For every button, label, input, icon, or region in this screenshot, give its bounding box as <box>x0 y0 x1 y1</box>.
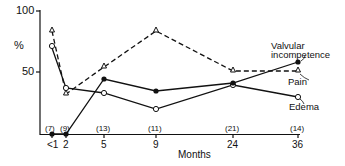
x-tick: 5 <box>101 140 107 150</box>
n-label: (11) <box>148 124 162 134</box>
x-tick: 2 <box>63 140 69 150</box>
n-label: (13) <box>96 124 110 134</box>
y-tick-100: 100 <box>16 5 34 15</box>
series-valvular <box>52 62 298 134</box>
y-tick-50: 50 <box>22 66 34 76</box>
legend-valvular: incompetence <box>271 50 330 60</box>
x-tick: 9 <box>153 140 159 150</box>
legend-pain: Pain <box>288 77 307 87</box>
x-tick: 36 <box>292 140 303 150</box>
n-label: (9) <box>60 124 70 134</box>
series-pain <box>52 31 298 94</box>
x-axis-label: Months <box>178 150 211 160</box>
n-label: (21) <box>225 124 239 134</box>
x-tick: <1 <box>47 140 58 150</box>
legend-edema: Edema <box>289 102 319 112</box>
n-label: (14) <box>290 124 304 134</box>
n-label: (7) <box>45 124 55 134</box>
y-axis-label: % <box>14 40 24 50</box>
x-tick: 24 <box>227 140 238 150</box>
